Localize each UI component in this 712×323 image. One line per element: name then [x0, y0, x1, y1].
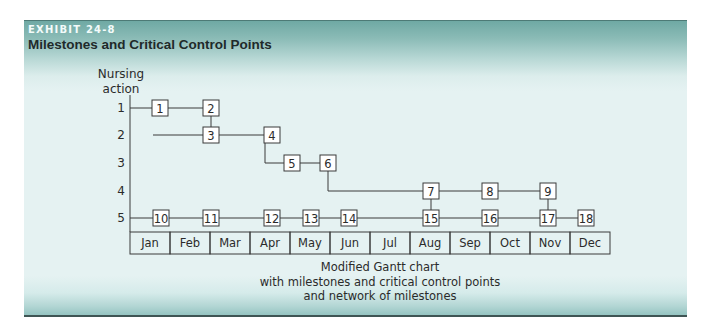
- month-axis: JanFebMarAprMayJunJulAugSepOctNovDec: [130, 232, 610, 254]
- milestone-node: 16: [482, 210, 498, 226]
- y-axis-title-line1: Nursing: [98, 67, 144, 81]
- milestone-number: 8: [486, 185, 493, 199]
- milestone-node: 13: [303, 210, 319, 226]
- connection-line: [265, 143, 284, 163]
- diagram-caption: Modified Gantt chart with milestones and…: [230, 260, 530, 304]
- milestone-number: 16: [483, 212, 498, 226]
- milestone-number: 11: [204, 212, 219, 226]
- month-label: Oct: [500, 236, 520, 250]
- row-label: 3: [117, 156, 125, 170]
- milestone-number: 12: [265, 212, 280, 226]
- milestone-number: 1: [156, 102, 163, 116]
- caption-line-2: with milestones and critical control poi…: [230, 275, 530, 290]
- row-label: 2: [117, 128, 125, 142]
- milestone-number: 9: [544, 185, 551, 199]
- month-label: Mar: [219, 236, 241, 250]
- month-label: Sep: [459, 236, 481, 250]
- row-label: 5: [117, 211, 125, 225]
- milestone-node: 1: [152, 100, 168, 116]
- milestone-number: 10: [154, 212, 169, 226]
- milestone-node: 12: [264, 210, 280, 226]
- milestone-node: 18: [578, 210, 594, 226]
- month-label: Feb: [180, 236, 200, 250]
- row-label: 4: [117, 184, 125, 198]
- month-label: Nov: [539, 236, 562, 250]
- milestone-number: 3: [207, 129, 214, 143]
- milestone-node: 17: [540, 210, 556, 226]
- month-label: May: [298, 236, 322, 250]
- milestone-node: 10: [153, 210, 169, 226]
- month-label: Jul: [382, 236, 397, 250]
- milestone-node: 3: [203, 127, 219, 143]
- milestone-number: 17: [541, 212, 556, 226]
- milestone-node: 14: [341, 210, 357, 226]
- milestone-number: 15: [424, 212, 439, 226]
- row-labels: 12345: [117, 101, 125, 225]
- month-label: Jan: [140, 236, 159, 250]
- month-label: Jun: [340, 236, 359, 250]
- month-label: Dec: [579, 236, 601, 250]
- milestone-node: 4: [264, 127, 280, 143]
- month-label: Aug: [419, 236, 441, 250]
- milestone-node: 11: [203, 210, 219, 226]
- y-axis-title-line2: action: [103, 82, 140, 96]
- milestone-number: 2: [207, 102, 214, 116]
- milestone-number: 6: [324, 157, 331, 171]
- connection-line: [328, 171, 423, 191]
- milestone-number: 18: [579, 212, 594, 226]
- milestone-node: 15: [423, 210, 439, 226]
- milestone-node: 2: [203, 100, 219, 116]
- milestone-node: 7: [423, 183, 439, 199]
- milestone-node: 5: [284, 155, 300, 171]
- milestone-nodes: 123456789101112131415161718: [152, 100, 594, 226]
- milestone-number: 14: [342, 212, 357, 226]
- caption-line-3: and network of milestones: [230, 289, 530, 304]
- milestone-number: 7: [427, 185, 434, 199]
- caption-line-1: Modified Gantt chart: [230, 260, 530, 275]
- milestone-number: 5: [288, 157, 295, 171]
- row-label: 1: [117, 101, 125, 115]
- milestone-node: 6: [320, 155, 336, 171]
- milestone-node: 9: [540, 183, 556, 199]
- month-label: Apr: [260, 236, 280, 250]
- milestone-number: 13: [304, 212, 319, 226]
- milestone-number: 4: [268, 129, 275, 143]
- milestone-node: 8: [482, 183, 498, 199]
